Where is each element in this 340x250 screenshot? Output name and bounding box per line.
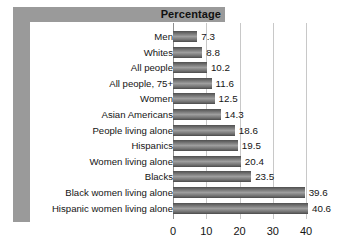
- x-tick-label: 30: [258, 225, 288, 237]
- bar: [173, 140, 238, 151]
- bar-row: Women12.5: [30, 91, 340, 107]
- bar: [173, 47, 202, 58]
- bar-row: Black women living alone39.6: [30, 185, 340, 201]
- bar-row: Whites8.8: [30, 45, 340, 61]
- bar: [173, 203, 308, 214]
- bar: [173, 156, 241, 167]
- bar: [173, 93, 215, 104]
- plot-area: Men7.3Whites8.8All people10.2All people,…: [30, 22, 340, 250]
- bar-row: Hispanics19.5: [30, 138, 340, 154]
- category-label: Blacks: [145, 169, 173, 185]
- bar-row: Women living alone20.4: [30, 154, 340, 170]
- bar-value-label: 11.6: [212, 76, 234, 92]
- chart-title: Percentage: [140, 7, 225, 22]
- bar-row: Hispanic women living alone40.6: [30, 201, 340, 217]
- category-label: People living alone: [92, 123, 173, 139]
- bar: [173, 187, 305, 198]
- bar-value-label: 40.6: [308, 201, 331, 217]
- category-label: Women: [140, 91, 173, 107]
- decorative-frame-left: [13, 7, 30, 222]
- bar: [173, 109, 221, 120]
- category-label: Asian Americans: [102, 107, 173, 123]
- x-tick-label: 40: [291, 225, 321, 237]
- bar-value-label: 39.6: [305, 185, 328, 201]
- bar-value-label: 23.5: [251, 169, 274, 185]
- bar-row: Men7.3: [30, 29, 340, 45]
- bar-value-label: 20.4: [241, 154, 264, 170]
- category-label: All people: [131, 60, 173, 76]
- x-axis-tick-labels: 010203040: [30, 225, 340, 243]
- category-label: Women living alone: [89, 154, 173, 170]
- bar: [173, 125, 235, 136]
- x-tick-label: 10: [191, 225, 221, 237]
- bar-row: Asian Americans14.3: [30, 107, 340, 123]
- bar-value-label: 12.5: [215, 91, 238, 107]
- bar-value-label: 8.8: [202, 45, 220, 61]
- bar-value-label: 18.6: [235, 123, 258, 139]
- bar-rows: Men7.3Whites8.8All people10.2All people,…: [30, 29, 340, 216]
- bar: [173, 62, 207, 73]
- bar-value-label: 7.3: [197, 29, 215, 45]
- category-label: Whites: [144, 45, 173, 61]
- bar: [173, 31, 197, 42]
- x-tick-label: 0: [158, 225, 188, 237]
- category-label: Men: [154, 29, 173, 45]
- bar-row: All people, 75+11.6: [30, 76, 340, 92]
- bar-value-label: 10.2: [207, 60, 230, 76]
- x-tick-label: 20: [225, 225, 255, 237]
- category-label: All people, 75+: [109, 76, 173, 92]
- bar-value-label: 14.3: [221, 107, 244, 123]
- category-label: Hispanic women living alone: [52, 201, 173, 217]
- bar-row: All people10.2: [30, 60, 340, 76]
- chart-figure: Percentage Men7.3Whites8.8All people10.2…: [0, 0, 340, 250]
- bar-value-label: 19.5: [238, 138, 261, 154]
- category-label: Hispanics: [131, 138, 173, 154]
- bar-row: People living alone18.6: [30, 123, 340, 139]
- bar: [173, 78, 212, 89]
- category-label: Black women living alone: [65, 185, 173, 201]
- bar-row: Blacks23.5: [30, 169, 340, 185]
- bar: [173, 171, 251, 182]
